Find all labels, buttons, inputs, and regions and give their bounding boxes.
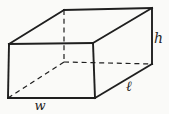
hidden-back-bottom-edge — [64, 62, 152, 64]
bottom-right-depth-edge — [95, 64, 152, 98]
width-label: w — [34, 98, 45, 113]
top-right-depth-edge — [93, 8, 152, 43]
front-top-edge — [9, 43, 93, 44]
front-right-edge — [93, 43, 95, 98]
top-left-depth-edge — [9, 10, 64, 44]
height-label: h — [154, 30, 163, 46]
front-left-edge — [8, 44, 9, 98]
rectangular-prism-figure: w ℓ h — [0, 0, 169, 114]
hidden-bottom-left-depth-edge — [8, 62, 64, 98]
figure-canvas: w ℓ h — [0, 0, 169, 114]
back-top-edge — [64, 8, 152, 10]
length-label: ℓ — [126, 78, 132, 94]
